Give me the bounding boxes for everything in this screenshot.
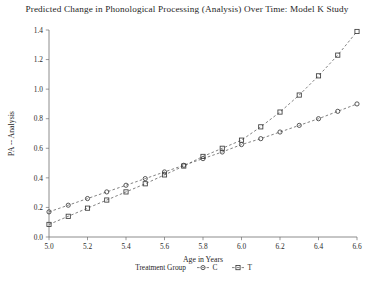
y-tick-label: 1.2 <box>34 55 44 64</box>
axis-labels: 0.00.20.40.60.81.01.21.45.05.25.45.65.86… <box>7 26 362 264</box>
series-t <box>47 29 359 226</box>
x-tick-label: 5.8 <box>198 242 208 251</box>
chart-container: Predicted Change in Phonological Process… <box>0 0 374 286</box>
x-tick-label: 5.6 <box>160 242 170 251</box>
y-tick-label: 0.2 <box>34 203 44 212</box>
x-tick-label: 6.6 <box>352 242 362 251</box>
legend-entry-t[interactable]: T <box>232 263 253 272</box>
data-point-c <box>259 137 263 141</box>
series-line-c <box>49 104 357 212</box>
plot-area: 0.00.20.40.60.81.01.21.45.05.25.45.65.86… <box>0 0 374 286</box>
legend-label: C <box>213 263 218 272</box>
data-point-c <box>124 183 128 187</box>
y-tick-label: 0.4 <box>34 174 44 183</box>
y-tick-label: 0.0 <box>34 233 44 242</box>
x-tick-label: 6.0 <box>237 242 247 251</box>
series-c <box>47 102 359 214</box>
legend-entry-c[interactable]: C <box>197 263 218 272</box>
y-tick-label: 1.0 <box>34 85 44 94</box>
x-tick-label: 5.2 <box>83 242 93 251</box>
legend-title: Treatment Group <box>135 263 186 272</box>
y-axis-title: PA -- Analysis <box>7 111 16 156</box>
series-line-t <box>49 31 357 224</box>
data-point-t <box>355 29 359 33</box>
data-series-layer <box>47 29 359 226</box>
y-tick-label: 0.8 <box>34 114 44 123</box>
legend-label: T <box>248 263 253 272</box>
data-point-t <box>85 206 89 210</box>
data-point-c <box>336 109 340 113</box>
x-tick-label: 5.0 <box>44 242 54 251</box>
x-tick-label: 5.4 <box>121 242 131 251</box>
data-point-c <box>105 190 109 194</box>
x-tick-label: 6.2 <box>275 242 285 251</box>
data-point-c <box>278 130 282 134</box>
axes <box>46 30 357 240</box>
y-tick-label: 0.6 <box>34 144 44 153</box>
data-point-t <box>143 182 147 186</box>
x-tick-label: 6.4 <box>314 242 324 251</box>
y-tick-label: 1.4 <box>34 26 44 35</box>
legend: Treatment GroupCT <box>135 263 252 272</box>
